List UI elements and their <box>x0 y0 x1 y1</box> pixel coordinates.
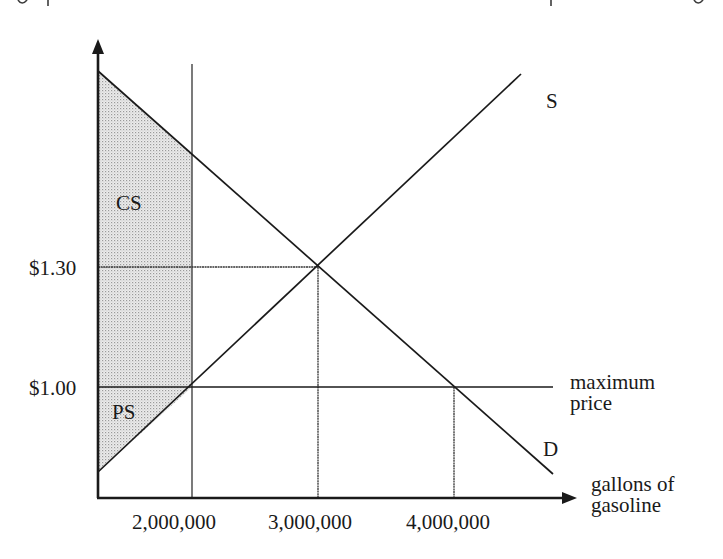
x-tick-label-3m: 3,000,000 <box>268 510 352 534</box>
supply-label: S <box>546 89 558 113</box>
x-axis-arrow-icon <box>562 492 577 504</box>
x-tick-label-2m: 2,000,000 <box>132 510 216 534</box>
x-axis-title-line2: gasoline <box>591 493 661 517</box>
max-price-label-line2: price <box>570 391 612 415</box>
x-tick-label-4m: 4,000,000 <box>406 510 490 534</box>
y-tick-label-1-30: $1.30 <box>29 256 76 280</box>
cropped-top-text <box>18 0 703 6</box>
cs-label: CS <box>116 191 142 215</box>
ps-label: PS <box>112 400 135 424</box>
demand-label: D <box>543 437 558 461</box>
supply-demand-chart: CS PS S D $1.30 $1.00 2,000,000 3,000,00… <box>0 0 723 559</box>
consumer-surplus-area <box>98 71 192 387</box>
y-axis-arrow-icon <box>92 39 104 54</box>
y-tick-label-1-00: $1.00 <box>29 376 76 400</box>
